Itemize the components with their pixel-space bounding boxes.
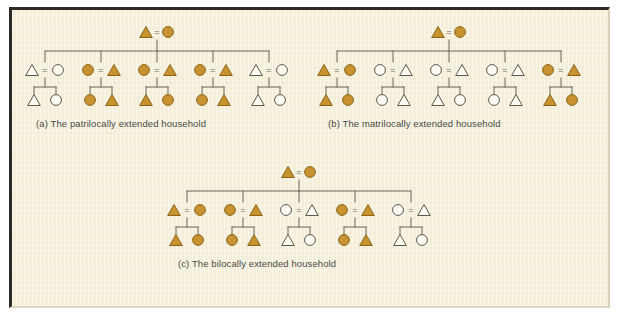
gen2-2-left-open-circle [281, 205, 292, 216]
gen2-3-right-filled-triangle [362, 205, 375, 216]
gen3-0-1-filled-circle [343, 95, 354, 106]
gen2-2-left-filled-circle [139, 65, 150, 76]
marriage-link-3: = [502, 65, 507, 75]
top-couple-filled-triangle [140, 27, 153, 38]
marriage-link-1: = [390, 65, 395, 75]
marriage-link-0: = [42, 65, 47, 75]
gen2-3-right-filled-triangle [220, 65, 233, 76]
gen2-0-right-filled-circle [345, 65, 356, 76]
gen3-2-0-open-triangle [432, 95, 445, 106]
gen3-1-1-filled-triangle [106, 95, 119, 106]
gen2-0-right-filled-circle [195, 205, 206, 216]
gen2-4-right-open-triangle [418, 205, 431, 216]
gen3-1-1-filled-triangle [248, 235, 261, 246]
gen3-2-1-filled-circle [163, 95, 174, 106]
gen2-2-left-open-circle [431, 65, 442, 76]
gen2-3-left-open-circle [487, 65, 498, 76]
gen3-1-0-filled-circle [227, 235, 238, 246]
marriage-link-0: = [184, 205, 189, 215]
gen3-0-1-open-circle [51, 95, 62, 106]
marriage-link-1: = [98, 65, 103, 75]
panel-patrilocal: ====== [22, 18, 292, 118]
gen3-4-0-filled-triangle [544, 95, 557, 106]
gen2-2-right-filled-triangle [164, 65, 177, 76]
gen2-3-left-filled-circle [337, 205, 348, 216]
marriage-link-3: = [352, 205, 357, 215]
marriage-link-4: = [266, 65, 271, 75]
marriage-link-1: = [240, 205, 245, 215]
panel-c-caption: (c) The bilocally extended household [178, 258, 336, 269]
gen2-4-right-filled-triangle [568, 65, 581, 76]
gen3-3-0-open-circle [489, 95, 500, 106]
gen2-4-left-open-circle [393, 205, 404, 216]
kinship-diagram-b: ====== [314, 18, 584, 118]
gen3-2-0-open-triangle [282, 235, 295, 246]
gen3-4-1-open-circle [275, 95, 286, 106]
gen2-0-left-filled-triangle [318, 65, 331, 76]
gen3-4-0-open-triangle [394, 235, 407, 246]
top-marriage-link: = [154, 27, 159, 37]
gen3-2-1-open-circle [305, 235, 316, 246]
gen3-4-1-filled-circle [567, 95, 578, 106]
top-couple-filled-circle [163, 27, 174, 38]
top-marriage-link: = [446, 27, 451, 37]
gen3-3-0-filled-circle [197, 95, 208, 106]
top-couple-filled-circle [455, 27, 466, 38]
gen2-1-left-open-circle [375, 65, 386, 76]
top-marriage-link: = [296, 167, 301, 177]
marriage-link-2: = [296, 205, 301, 215]
gen3-1-1-open-triangle [398, 95, 411, 106]
gen2-2-right-open-triangle [306, 205, 319, 216]
gen3-4-0-open-triangle [252, 95, 265, 106]
gen2-0-left-filled-triangle [168, 205, 181, 216]
marriage-link-4: = [558, 65, 563, 75]
top-couple-filled-triangle [282, 167, 295, 178]
gen3-3-1-filled-triangle [218, 95, 231, 106]
gen2-4-right-open-circle [277, 65, 288, 76]
gen3-4-1-open-circle [417, 235, 428, 246]
marriage-link-4: = [408, 205, 413, 215]
panel-matrilocal: ====== [314, 18, 584, 118]
gen3-3-0-filled-circle [339, 235, 350, 246]
gen3-2-1-open-circle [455, 95, 466, 106]
gen3-1-0-filled-circle [85, 95, 96, 106]
gen2-3-left-filled-circle [195, 65, 206, 76]
top-couple-filled-triangle [432, 27, 445, 38]
marriage-link-2: = [446, 65, 451, 75]
kinship-figure-frame: ====== ====== ====== (a) The patrilocall… [9, 7, 610, 308]
kinship-diagram-a: ====== [22, 18, 292, 118]
kinship-diagram-c: ====== [164, 158, 434, 258]
marriage-link-2: = [154, 65, 159, 75]
gen3-3-1-open-triangle [510, 95, 523, 106]
gen2-4-left-filled-circle [543, 65, 554, 76]
gen2-1-right-filled-triangle [108, 65, 121, 76]
gen3-3-1-filled-triangle [360, 235, 373, 246]
gen2-4-left-open-triangle [250, 65, 263, 76]
marriage-link-0: = [334, 65, 339, 75]
gen2-1-left-filled-circle [83, 65, 94, 76]
gen2-0-left-open-triangle [26, 65, 39, 76]
gen2-0-right-open-circle [53, 65, 64, 76]
gen2-2-right-open-triangle [456, 65, 469, 76]
panel-bilocal: ====== [164, 158, 434, 258]
gen3-0-0-filled-triangle [320, 95, 333, 106]
gen2-1-right-filled-triangle [250, 205, 263, 216]
gen3-0-0-filled-triangle [170, 235, 183, 246]
gen2-1-left-filled-circle [225, 205, 236, 216]
gen2-3-right-open-triangle [512, 65, 525, 76]
gen3-2-0-filled-triangle [140, 95, 153, 106]
panel-a-caption: (a) The patrilocally extended household [36, 118, 206, 129]
gen3-0-0-open-triangle [28, 95, 41, 106]
gen3-1-0-open-circle [377, 95, 388, 106]
top-couple-filled-circle [305, 167, 316, 178]
panel-b-caption: (b) The matrilocally extended household [328, 118, 501, 129]
gen2-1-right-open-triangle [400, 65, 413, 76]
gen3-0-1-filled-circle [193, 235, 204, 246]
marriage-link-3: = [210, 65, 215, 75]
